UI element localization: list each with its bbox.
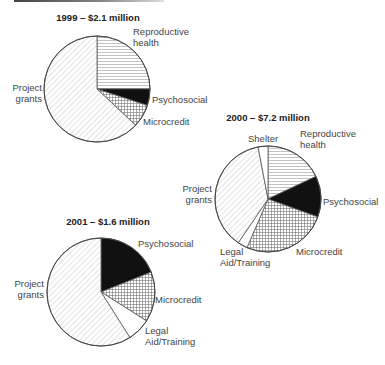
slice-label: Shelter [248,133,278,144]
slice-label: Microcredit [155,294,202,305]
slice-label: Psychosocial [138,238,193,249]
slice-label: Microcredit [296,246,343,257]
slice-label: LegalAid/Training [145,325,195,347]
pie-title: 1999 – $2.1 million [56,12,140,23]
pie-chart-0: 1999 – $2.1 millionReproductivehealthPsy… [12,12,207,142]
pie-chart-2: 2001 – $1.6 millionPsychosocialMicrocred… [14,216,201,347]
slice-label: Microcredit [143,116,190,127]
slice-label: Psychosocial [323,196,378,207]
slice-label: Projectgrants [12,82,42,104]
pie-title: 2000 – $7.2 million [226,112,310,123]
pie-charts-figure: 1999 – $2.1 millionReproductivehealthPsy… [0,0,385,365]
pie-chart-1: 2000 – $7.2 millionShelterReproductivehe… [182,112,378,268]
slice-label: Reproductivehealth [300,128,356,150]
slice-label: Projectgrants [14,278,44,300]
pie-title: 2001 – $1.6 million [66,216,150,227]
slice-label: Reproductivehealth [133,26,189,48]
slice-label: Psychosocial [152,94,207,105]
slice-label: Projectgrants [182,183,212,205]
